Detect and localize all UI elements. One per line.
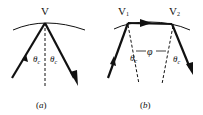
outgoing-arrowhead-icon [186,62,193,75]
incoming-ray [12,23,45,78]
caption-a: (a) [36,100,47,110]
angle-label-right: θc [173,54,180,65]
panel-b: φ V1 V2 θc θc (b) [108,5,193,110]
angle-label-right: θc [50,54,57,65]
incoming-ray [108,23,128,78]
vertex-label-2: V2 [169,5,180,17]
separation-label: φ [147,46,153,57]
panel-a: V θc θc (a) [12,5,85,110]
top-arrow-icon [140,19,152,27]
angle-label-left: θc [33,54,40,65]
outgoing-ray [45,23,74,78]
diagram: V θc θc (a) φ V1 V2 θc θc (b) [0,0,203,115]
outgoing-arrowhead-icon [70,70,78,86]
angle-label-left: θc [130,53,137,64]
vertex-label: V [41,5,49,17]
vertex-label-1: V1 [118,5,129,17]
normal-dashed-line-2 [162,26,173,84]
caption-b: (b) [140,100,151,110]
